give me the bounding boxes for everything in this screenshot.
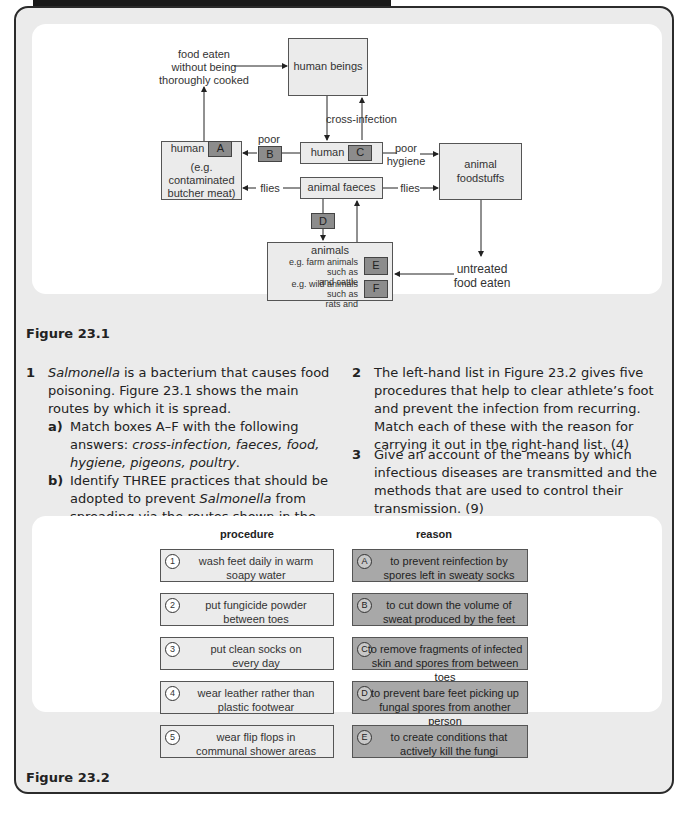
box-e: E bbox=[364, 257, 388, 275]
procedure-item: 3 put clean socks onevery day bbox=[160, 637, 334, 670]
untreated-food-label: untreated food eaten bbox=[452, 262, 512, 291]
letter-circle: A bbox=[357, 554, 372, 569]
reason-item: C to remove fragments of infectedskin an… bbox=[352, 637, 528, 670]
reason-line: skin and spores from between toes bbox=[367, 656, 523, 684]
procedure-header: procedure bbox=[160, 528, 334, 540]
box-d: D bbox=[311, 213, 335, 229]
reason-line: spores left in sweaty socks bbox=[375, 568, 523, 582]
number-circle: 1 bbox=[165, 554, 180, 569]
procedure-line: wear leather rather than bbox=[183, 686, 329, 700]
question-1a: a) Match boxes A–F with the following an… bbox=[48, 418, 336, 472]
sub-label: a) bbox=[48, 418, 63, 436]
food-eaten-line: thoroughly cooked bbox=[154, 74, 254, 87]
procedure-item: 4 wear leather rather thanplastic footwe… bbox=[160, 681, 334, 714]
animals-label: animals bbox=[268, 244, 392, 257]
food-eaten-line: without being bbox=[154, 61, 254, 74]
procedure-line: every day bbox=[183, 656, 329, 670]
procedure-line: wear flip flops in bbox=[183, 730, 329, 744]
q1a-end: . bbox=[236, 455, 240, 470]
cross-infection-label: cross-infection bbox=[326, 113, 396, 126]
flies-left-label: flies bbox=[256, 182, 284, 195]
poor-hygiene-label: poor hygiene bbox=[386, 142, 426, 168]
poor-label: poor bbox=[254, 133, 284, 146]
number-circle: 5 bbox=[165, 730, 180, 745]
sub-label: b) bbox=[48, 472, 63, 490]
procedure-item: 2 put fungicide powderbetween toes bbox=[160, 593, 334, 626]
untreated-line: food eaten bbox=[452, 276, 512, 290]
human-beings-label: human beings bbox=[293, 60, 362, 73]
reason-item: D to prevent bare feet picking upfungal … bbox=[352, 681, 528, 714]
wild-animals-text: e.g. wild animals such as rats and bbox=[270, 279, 358, 309]
box-b: B bbox=[258, 146, 282, 162]
procedure-line: plastic footwear bbox=[183, 700, 329, 714]
reason-item: B to cut down the volume ofsweat produce… bbox=[352, 593, 528, 626]
procedure-line: soapy water bbox=[183, 568, 329, 582]
letter-circle: E bbox=[357, 730, 372, 745]
figure-23-2-caption: Figure 23.2 bbox=[26, 770, 110, 785]
reason-item: E to create conditions thatactively kill… bbox=[352, 725, 528, 758]
box-c: C bbox=[348, 145, 372, 161]
q1-italic: Salmonella bbox=[48, 365, 120, 380]
procedure-line: between toes bbox=[183, 612, 329, 626]
wild-line: rats and bbox=[270, 299, 358, 309]
question-2: 2 The left-hand list in Figure 23.2 give… bbox=[352, 364, 664, 454]
reason-line: to prevent bare feet picking up bbox=[367, 686, 523, 700]
human-a-label: human bbox=[171, 142, 205, 155]
figure-23-2-panel bbox=[32, 516, 662, 712]
human-beings-box: human beings bbox=[288, 38, 368, 96]
farm-line: e.g. farm animals such as bbox=[270, 257, 358, 277]
human-c-box: human C bbox=[300, 142, 383, 164]
box-f: F bbox=[364, 280, 388, 298]
question-3: 3 Give an account of the means by which … bbox=[352, 446, 668, 518]
q2-text: The left-hand list in Figure 23.2 gives … bbox=[374, 364, 664, 454]
number-circle: 3 bbox=[165, 642, 180, 657]
procedure-line: communal shower areas bbox=[183, 744, 329, 758]
wild-line: e.g. wild animals such as bbox=[270, 279, 358, 299]
reason-line: sweat produced by the feet bbox=[375, 612, 523, 626]
human-a-box: human A (e.g. contaminated butcher meat) bbox=[161, 141, 242, 200]
q3-text: Give an account of the means by which in… bbox=[374, 446, 668, 518]
box-a: A bbox=[208, 141, 232, 157]
reason-header: reason bbox=[346, 528, 522, 540]
flies-right-label: flies bbox=[396, 182, 424, 195]
animal-faeces-label: animal faeces bbox=[308, 181, 376, 194]
procedure-line: wash feet daily in warm bbox=[183, 554, 329, 568]
question-number: 1 bbox=[26, 364, 35, 382]
animal-faeces-box: animal faeces bbox=[300, 177, 383, 199]
poor-hygiene-line: hygiene bbox=[386, 155, 426, 168]
human-a-example: butcher meat) bbox=[168, 187, 236, 200]
reason-item: A to prevent reinfection byspores left i… bbox=[352, 549, 528, 582]
reason-line: actively kill the fungi bbox=[375, 744, 523, 758]
reason-line: to cut down the volume of bbox=[375, 598, 523, 612]
animal-foodstuffs-line: foodstuffs bbox=[457, 172, 505, 185]
question-number: 3 bbox=[352, 446, 361, 464]
animal-foodstuffs-line: animal bbox=[464, 158, 496, 171]
procedure-line: put fungicide powder bbox=[183, 598, 329, 612]
q1b-italic: Salmonella bbox=[200, 491, 272, 506]
number-circle: 2 bbox=[165, 598, 180, 613]
animals-box: animals e.g. farm animals such as and ca… bbox=[267, 242, 393, 301]
reason-line: fungal spores from another person bbox=[367, 700, 523, 728]
number-circle: 4 bbox=[165, 686, 180, 701]
human-c-label: human bbox=[311, 146, 345, 159]
procedure-line: put clean socks on bbox=[183, 642, 329, 656]
reason-line: to remove fragments of infected bbox=[367, 642, 523, 656]
question-number: 2 bbox=[352, 364, 361, 382]
food-eaten-label: food eaten without being thoroughly cook… bbox=[154, 48, 254, 88]
figure-23-1-caption: Figure 23.1 bbox=[26, 326, 110, 341]
reason-line: to create conditions that bbox=[375, 730, 523, 744]
food-eaten-line: food eaten bbox=[154, 48, 254, 61]
letter-circle: B bbox=[357, 598, 372, 613]
procedure-item: 5 wear flip flops incommunal shower area… bbox=[160, 725, 334, 758]
poor-hygiene-line: poor bbox=[386, 142, 426, 155]
procedure-item: 1 wash feet daily in warmsoapy water bbox=[160, 549, 334, 582]
untreated-line: untreated bbox=[452, 262, 512, 276]
human-a-example: (e.g. contaminated bbox=[162, 161, 241, 187]
reason-line: to prevent reinfection by bbox=[375, 554, 523, 568]
animal-foodstuffs-box: animal foodstuffs bbox=[439, 143, 522, 200]
